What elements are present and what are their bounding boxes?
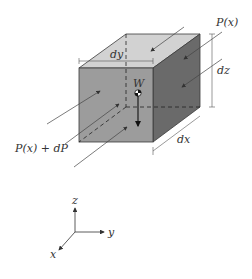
dx-label: dx	[177, 133, 191, 146]
x-axis-label: x	[50, 248, 57, 261]
dz-label: dz	[217, 64, 230, 77]
fluid-element-diagram: W dy dz dx P(x) P(x) + dP z y x	[0, 0, 252, 279]
z-axis-label: z	[71, 194, 78, 207]
dy-label: dy	[110, 48, 124, 61]
pressure-label-px: P(x)	[215, 16, 238, 29]
y-axis-label: y	[107, 226, 115, 239]
x-axis	[59, 232, 75, 250]
pressure-label-px-dp: P(x) + dP	[14, 142, 68, 155]
weight-label: W	[133, 77, 146, 90]
